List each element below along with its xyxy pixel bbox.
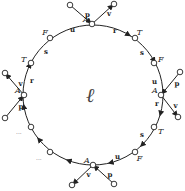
arc-node	[28, 60, 34, 66]
leaf-node	[175, 114, 181, 120]
leaf-node	[111, 1, 117, 7]
arc-node	[47, 35, 53, 41]
spoke-label: v	[173, 101, 179, 110]
arc-node	[151, 124, 157, 130]
hub-label: A	[151, 86, 158, 95]
leaf-node	[67, 2, 73, 8]
hub-label: A	[83, 156, 90, 165]
edge-label: s	[140, 48, 144, 57]
edge-label: u	[115, 152, 120, 161]
spoke-label: p	[19, 102, 24, 111]
spoke-label: p	[108, 170, 113, 179]
hub-label: A	[14, 86, 21, 95]
arc-node-label: T	[137, 28, 143, 37]
hub-label: A	[82, 15, 89, 24]
edge-label: r	[155, 99, 159, 108]
arc-node	[47, 149, 53, 155]
center-label: ℓ	[86, 83, 95, 107]
hub-node	[21, 92, 27, 98]
cycle-diagram: pvApvAvpAvpAFTTFTFusrrsursu ℓ ... ...	[0, 0, 185, 191]
leaf-node	[2, 115, 8, 121]
spoke-label: v	[106, 9, 112, 18]
edge-label: r	[30, 76, 34, 85]
arc-node	[151, 60, 157, 66]
arc-node-label: F	[136, 154, 143, 163]
edge-label: r	[113, 26, 117, 35]
leaf-node	[111, 181, 117, 187]
leaf-node	[69, 182, 75, 188]
ellipsis-left: ...	[16, 128, 22, 135]
edge-label: s	[140, 130, 144, 139]
arc-node	[28, 124, 34, 130]
arc-node-label: T	[21, 55, 27, 64]
arc-node-label: F	[41, 28, 48, 37]
leaf-node	[2, 70, 8, 76]
arc-node-label: T	[158, 127, 164, 136]
diagram-canvas: pvApvAvpAvpAFTTFTFusrrsursu ℓ ... ...	[0, 0, 185, 191]
ellipsis-bottom: ...	[36, 154, 42, 161]
hub-node	[89, 21, 95, 27]
leaf-node	[177, 69, 183, 75]
edge-label: u	[70, 25, 75, 34]
arc-node-label: F	[157, 55, 164, 64]
hub-node	[158, 92, 164, 98]
edge-label: u	[152, 77, 157, 86]
hub-node	[90, 162, 96, 168]
spoke-label: p	[175, 79, 180, 88]
spoke-label: v	[86, 170, 92, 179]
edge-label: s	[44, 47, 48, 56]
